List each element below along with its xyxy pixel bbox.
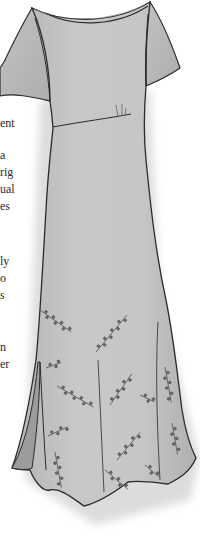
book-page: ent a rig ual es ly o s n er bbox=[0, 0, 200, 537]
dress-illustration bbox=[0, 0, 200, 537]
right-sleeve bbox=[146, 2, 180, 86]
